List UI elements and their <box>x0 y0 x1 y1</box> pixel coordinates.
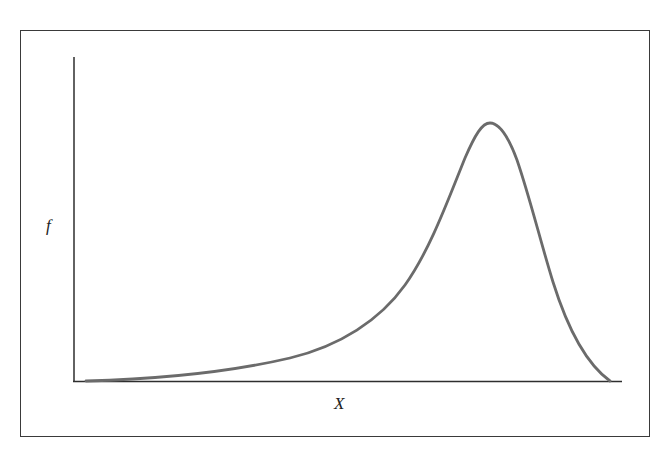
x-axis-label: X <box>334 394 344 414</box>
y-axis-label: f <box>46 216 51 236</box>
density-plot <box>0 0 667 460</box>
density-curve <box>86 123 610 381</box>
